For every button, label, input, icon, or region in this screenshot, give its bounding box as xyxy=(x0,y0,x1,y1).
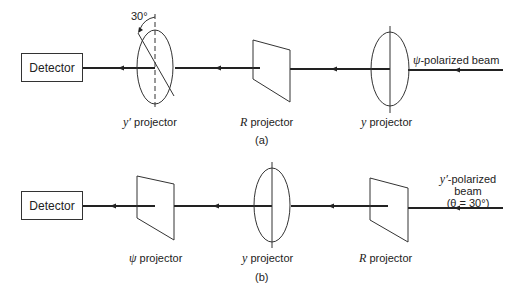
arrow-icon xyxy=(328,204,334,209)
psi-projector-shape xyxy=(137,176,174,240)
arrow-icon xyxy=(454,68,460,73)
psi-projector-label: ψ projector xyxy=(129,251,182,266)
arrow-icon xyxy=(118,66,124,71)
r-projector-shape xyxy=(370,178,408,242)
detector-box-a: Detector xyxy=(21,53,83,82)
arrow-icon xyxy=(215,66,221,71)
r-projector-label-b: R projector xyxy=(359,251,412,266)
psi-polarized-beam-label: ψ-polarized beam xyxy=(413,53,499,68)
r-projector-shape xyxy=(253,40,290,102)
detector-box-b: Detector xyxy=(21,191,83,220)
caption-a: (a) xyxy=(255,134,268,146)
y-prime-projector-label: y′ projector xyxy=(123,115,177,130)
arrow-icon xyxy=(110,204,116,209)
arrow-icon xyxy=(331,67,337,72)
y-projector-label-b: y projector xyxy=(242,251,293,266)
y-projector-label: y projector xyxy=(361,115,412,130)
y-prime-polarized-beam-label: y′-polarized beam (θ = 30°) xyxy=(428,173,508,209)
arrow-icon xyxy=(213,204,219,209)
caption-b: (b) xyxy=(255,271,268,283)
r-projector-label: R projector xyxy=(240,115,293,130)
angle-label: 30° xyxy=(131,10,148,22)
